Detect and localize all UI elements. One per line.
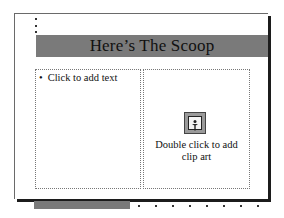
dot	[189, 205, 191, 207]
dot	[240, 205, 242, 207]
decorative-dots-horizontal	[136, 205, 266, 208]
caption-line-2: clip art	[144, 151, 249, 163]
clip-art-icon[interactable]	[184, 112, 206, 134]
clip-art-caption: Double click to add clip art	[144, 139, 249, 163]
slide-title-placeholder[interactable]: Here’s The Scoop	[36, 35, 268, 57]
text-placeholder[interactable]: •Click to add text	[35, 69, 141, 189]
bullet-line: •Click to add text	[39, 72, 117, 83]
dot	[35, 25, 37, 27]
dot	[138, 205, 140, 207]
slide-title: Here’s The Scoop	[90, 36, 215, 56]
bullet-icon: •	[39, 72, 43, 83]
dot	[257, 205, 259, 207]
footer-bar	[34, 201, 130, 209]
dot	[155, 205, 157, 207]
dot	[35, 31, 37, 33]
dot	[206, 205, 208, 207]
clip-art-figure	[188, 116, 202, 130]
caption-line-1: Double click to add	[144, 139, 249, 151]
dot	[35, 18, 37, 20]
figure-icon	[189, 119, 201, 131]
placeholder-text: Click to add text	[48, 72, 118, 83]
dot	[172, 205, 174, 207]
dot	[223, 205, 225, 207]
slide-canvas: Here’s The Scoop •Click to add text Doub…	[14, 13, 268, 199]
clip-art-placeholder[interactable]: Double click to add clip art	[143, 69, 250, 189]
